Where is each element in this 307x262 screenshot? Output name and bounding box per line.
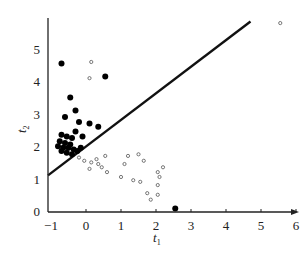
- data-point-filled: [64, 133, 70, 139]
- data-point-open: [123, 162, 126, 165]
- data-point-open: [77, 156, 80, 159]
- data-point-filled: [69, 151, 75, 157]
- data-point-filled: [59, 61, 65, 67]
- data-point-open: [88, 167, 91, 170]
- data-point-filled: [73, 108, 79, 114]
- x-tick-label: 4: [223, 218, 230, 233]
- data-point-open: [100, 166, 103, 169]
- data-point-open: [126, 154, 129, 157]
- x-tick-label: −1: [44, 218, 58, 233]
- data-point-open: [95, 158, 98, 161]
- x-tick-label: 1: [118, 218, 125, 233]
- data-point-open: [156, 171, 159, 174]
- data-point-filled: [59, 148, 65, 154]
- data-point-filled: [78, 145, 84, 151]
- y-tick-label: 3: [34, 107, 41, 122]
- data-point-filled: [102, 74, 108, 80]
- data-point-open: [90, 60, 93, 63]
- x-tick-label: 3: [188, 218, 195, 233]
- y-axis-label: t2: [14, 125, 31, 133]
- data-point-filled: [62, 114, 68, 120]
- data-point-filled: [64, 150, 70, 156]
- data-point-open: [156, 183, 159, 186]
- data-point-open: [132, 179, 135, 182]
- data-point-open: [83, 159, 86, 162]
- y-tick-label: 0: [34, 204, 41, 219]
- data-point-filled: [73, 129, 79, 135]
- y-tick-label: 5: [34, 42, 41, 57]
- data-point-open: [137, 153, 140, 156]
- data-point-open: [156, 193, 159, 196]
- x-tick-label: 5: [258, 218, 265, 233]
- data-point-filled: [172, 205, 178, 211]
- data-point-filled: [69, 135, 75, 141]
- y-tick-label: 4: [34, 74, 41, 89]
- data-point-filled: [76, 119, 82, 125]
- x-tick-label: 0: [83, 218, 90, 233]
- scatter-chart: −10123456012345 t1 t2: [0, 0, 307, 262]
- data-point-open: [139, 180, 142, 183]
- x-axis-arrow-icon: [291, 209, 299, 215]
- data-point-open: [146, 192, 149, 195]
- data-point-filled: [67, 95, 73, 101]
- data-point-open: [105, 171, 108, 174]
- plot-area: [48, 21, 282, 211]
- data-point-open: [279, 21, 282, 24]
- data-point-open: [158, 175, 161, 178]
- data-point-open: [149, 198, 152, 201]
- data-point-filled: [59, 132, 65, 138]
- data-point-open: [90, 161, 93, 164]
- data-point-filled: [87, 121, 93, 127]
- data-point-open: [161, 166, 164, 169]
- data-point-open: [142, 159, 145, 162]
- data-point-open: [97, 162, 100, 165]
- data-point-open: [119, 175, 122, 178]
- data-point-filled: [80, 133, 86, 139]
- data-point-filled: [55, 143, 61, 149]
- y-tick-label: 1: [34, 172, 41, 187]
- axes: [48, 18, 299, 215]
- data-point-filled: [95, 124, 101, 130]
- x-tick-label: 6: [293, 218, 300, 233]
- data-point-open: [104, 154, 107, 157]
- y-tick-label: 2: [34, 139, 41, 154]
- data-point-open: [88, 77, 91, 80]
